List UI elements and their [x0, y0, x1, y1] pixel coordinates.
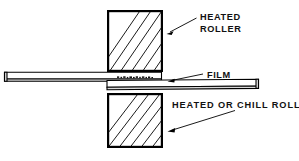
bottom-roller-leader-line [173, 111, 236, 131]
top-roller-label-line1: HEATED [200, 12, 241, 22]
bottom-roller-label: HEATED OR CHILL ROLLER [172, 100, 299, 110]
film-left-endcap [5, 72, 8, 81]
top-roller-label-line2: ROLLER [200, 24, 241, 34]
top-roller [94, 2, 201, 78]
arrow-down-left-icon [168, 128, 176, 133]
film-left-top-face [5, 72, 162, 79]
bottom-roller [92, 86, 199, 154]
film-right-thickness [107, 86, 259, 90]
film-right-endcap [256, 79, 259, 88]
top-roller-leader-line [170, 18, 197, 32]
film-label: FILM [207, 70, 231, 80]
technical-diagram: HEATED ROLLER FILM HEATED OR CHILL ROLLE… [0, 0, 299, 161]
bottom-roller-leader [168, 111, 236, 133]
diagram-canvas: HEATED ROLLER FILM HEATED OR CHILL ROLLE… [0, 0, 299, 161]
top-roller-leader [167, 18, 197, 35]
